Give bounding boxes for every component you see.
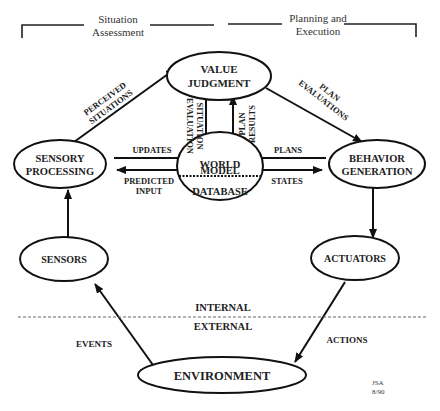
sensory-processing-line2: PROCESSING	[26, 166, 94, 177]
database-label: DATABASE	[192, 186, 248, 197]
edge-actions	[295, 282, 345, 362]
predicted-input-line1: PREDICTED	[124, 176, 174, 186]
header-right-line1: Planning and	[289, 12, 347, 24]
situation-evaluation-line1: SITUATION	[195, 102, 205, 150]
actuators-label: ACTUATORS	[324, 253, 386, 264]
header-left-line1: Situation	[98, 13, 138, 25]
signature-line1: JSA	[372, 379, 384, 387]
behavior-generation-line1: BEHAVIOR	[349, 153, 405, 164]
node-value-judgment	[167, 52, 271, 100]
value-judgment-line1: VALUE	[200, 63, 237, 75]
node-sensory-processing	[14, 140, 106, 188]
behavior-generation-line2: GENERATION	[342, 166, 413, 177]
header-right-line2: Execution	[296, 25, 341, 37]
updates-label: UPDATES	[132, 145, 171, 155]
plans-label: PLANS	[274, 145, 302, 155]
sensory-processing-line1: SENSORY	[35, 153, 85, 164]
states-label: STATES	[271, 176, 303, 186]
internal-label: INTERNAL	[195, 302, 250, 313]
situation-evaluation-line2: EVALUATION	[185, 98, 195, 155]
actions-label: ACTIONS	[326, 335, 367, 345]
plan-results-line2: RESULTS	[247, 105, 257, 143]
predicted-input-line2: INPUT	[136, 186, 163, 196]
external-label: EXTERNAL	[194, 321, 252, 332]
signature-line2: 8/90	[372, 388, 385, 396]
value-judgment-line2: JUDGMENT	[188, 77, 252, 89]
edge-events	[95, 284, 153, 365]
environment-label: ENVIRONMENT	[174, 369, 271, 383]
events-label: EVENTS	[76, 339, 112, 349]
sensors-label: SENSORS	[41, 254, 87, 265]
header-left-line2: Assessment	[92, 26, 144, 38]
plan-results-line1: PLAN	[237, 112, 247, 136]
diagram-canvas: Situation Assessment Planning and Execut…	[0, 0, 440, 411]
node-behavior-generation	[329, 140, 425, 188]
world-model-line2: MODEL	[200, 165, 240, 176]
